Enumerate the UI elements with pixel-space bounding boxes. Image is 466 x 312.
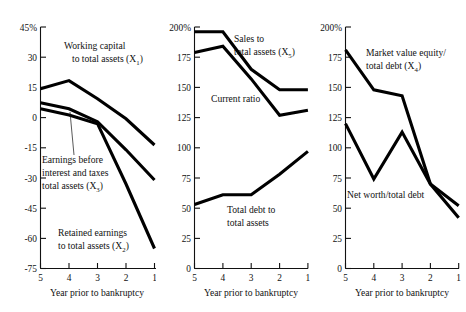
annotation-market-value-line2: total debt (X4) xyxy=(366,60,421,73)
y-tick-label-right-2: 150 xyxy=(328,83,342,93)
y-tick-label-left-3: 0 xyxy=(32,113,37,123)
annotation-ebit-line2: interest and taxes xyxy=(42,167,109,178)
annotation-total-debt-line2: total assets xyxy=(227,217,269,228)
chart-svg-wrapper-right: 200% 175 150 125 100 75 50 25 0 5 4 3 2 … xyxy=(300,0,466,312)
leader-line-ebit xyxy=(70,112,74,155)
annotation-working-capital-line1: Working capital xyxy=(64,40,126,51)
y-tick-label-left-6: -45 xyxy=(25,204,38,214)
x-axis-title-middle: Year prior to bankruptcy xyxy=(204,287,298,298)
y-tick-marks-left xyxy=(41,27,47,269)
annotation-retained-earnings-line2: to total assets (X2) xyxy=(58,240,129,253)
x-tick-label-mid-2: 3 xyxy=(249,273,254,283)
x-tick-label-right-4: 1 xyxy=(456,273,461,283)
y-tick-label-mid-5: 75 xyxy=(182,174,192,184)
x-tick-label-left-2: 3 xyxy=(95,273,100,283)
y-tick-label-left-0: 45% xyxy=(20,23,37,33)
x-tick-label-mid-1: 4 xyxy=(221,273,226,283)
y-tick-label-right-4: 100 xyxy=(328,143,342,153)
x-axis-title-left: Year prior to bankruptcy xyxy=(50,287,144,298)
series-line-market-value-equity xyxy=(346,50,459,206)
series-line-net-worth-total-debt xyxy=(346,124,459,218)
x-axis-title-right: Year prior to bankruptcy xyxy=(355,287,449,298)
x-tick-label-left-0: 5 xyxy=(38,273,43,283)
y-tick-label-left-2: 15 xyxy=(28,83,38,93)
y-tick-label-right-8: 0 xyxy=(337,264,342,274)
y-tick-label-right-3: 125 xyxy=(328,113,342,123)
y-tick-label-mid-4: 100 xyxy=(177,143,191,153)
y-tick-label-right-6: 50 xyxy=(333,204,343,214)
y-tick-label-left-7: -60 xyxy=(25,234,38,244)
chart-panel-middle: 200% 175 150 125 100 75 50 25 0 5 4 3 2 … xyxy=(155,0,311,312)
y-tick-label-left-4: -15 xyxy=(25,143,38,153)
y-tick-label-right-1: 175 xyxy=(328,53,342,63)
annotation-current-ratio: Current ratio xyxy=(211,93,260,104)
chart-panel-left: 45% 30 15 0 -15 -30 -45 -60 -75 5 4 3 2 … xyxy=(0,0,156,312)
y-tick-label-mid-6: 50 xyxy=(182,204,192,214)
line-chart-middle: 200% 175 150 125 100 75 50 25 0 5 4 3 2 … xyxy=(155,0,311,312)
annotation-ebit-line3: total assets (X3) xyxy=(42,180,103,193)
y-tick-marks-middle xyxy=(195,27,201,269)
y-tick-label-left-1: 30 xyxy=(28,53,38,63)
chart-svg-wrapper-middle: 200% 175 150 125 100 75 50 25 0 5 4 3 2 … xyxy=(155,0,311,312)
x-tick-label-right-1: 4 xyxy=(371,273,376,283)
y-tick-label-right-5: 75 xyxy=(333,174,343,184)
annotation-ebit-line1: Earnings before xyxy=(42,154,103,165)
y-tick-label-mid-2: 150 xyxy=(177,83,191,93)
annotation-net-worth: Net worth/total debt xyxy=(347,189,425,200)
y-tick-label-mid-1: 175 xyxy=(177,53,191,63)
y-tick-label-left-8: -75 xyxy=(25,264,38,274)
y-tick-label-mid-3: 125 xyxy=(177,113,191,123)
line-chart-left: 45% 30 15 0 -15 -30 -45 -60 -75 5 4 3 2 … xyxy=(0,0,156,312)
x-tick-label-right-3: 2 xyxy=(428,273,433,283)
x-tick-marks-left xyxy=(41,263,155,269)
y-tick-label-mid-8: 0 xyxy=(186,264,191,274)
x-tick-marks-right xyxy=(346,263,459,269)
annotation-working-capital-line2: to total assets (X1) xyxy=(72,53,143,66)
y-tick-label-mid-7: 25 xyxy=(182,234,192,244)
y-tick-marks-right xyxy=(346,27,352,269)
line-chart-right: 200% 175 150 125 100 75 50 25 0 5 4 3 2 … xyxy=(300,0,466,312)
x-tick-label-right-2: 3 xyxy=(400,273,405,283)
y-tick-label-mid-0: 200% xyxy=(169,23,191,33)
x-tick-marks-middle xyxy=(195,263,308,269)
annotation-retained-earnings-line1: Retained earnings xyxy=(58,227,127,238)
y-tick-label-right-0: 200% xyxy=(320,23,342,33)
annotation-total-debt-line1: Total debt to xyxy=(227,204,276,215)
x-tick-label-mid-3: 2 xyxy=(277,273,282,283)
chart-svg-wrapper-left: 45% 30 15 0 -15 -30 -45 -60 -75 5 4 3 2 … xyxy=(0,0,156,312)
x-tick-label-right-0: 5 xyxy=(343,273,348,283)
annotation-sales-line1: Sales to xyxy=(234,33,264,44)
x-tick-label-mid-0: 5 xyxy=(192,273,197,283)
x-tick-label-left-3: 2 xyxy=(124,273,129,283)
series-line-total-debt-total-assets xyxy=(195,151,308,204)
x-tick-label-left-1: 4 xyxy=(67,273,72,283)
y-tick-label-right-7: 25 xyxy=(333,234,343,244)
annotation-market-value-line1: Market value equity/ xyxy=(366,47,446,58)
y-tick-label-left-5: -30 xyxy=(25,174,38,184)
chart-panel-right: 200% 175 150 125 100 75 50 25 0 5 4 3 2 … xyxy=(300,0,466,312)
